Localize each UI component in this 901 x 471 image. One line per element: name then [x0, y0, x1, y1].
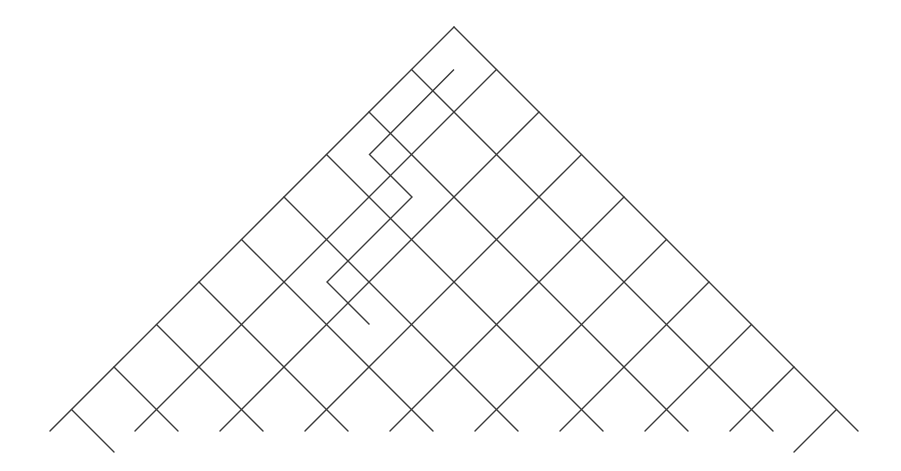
- right-edge: [454, 27, 858, 431]
- grid-line-down-right: [157, 325, 264, 432]
- grid-line-down-left: [730, 367, 794, 431]
- grid-line-down-left: [475, 240, 667, 432]
- lattice-diagram: [0, 0, 901, 471]
- grid-line-down-right: [114, 367, 178, 431]
- grid-line-down-right: [412, 70, 774, 432]
- left-edge: [50, 27, 454, 431]
- grid-line-down-right: [327, 155, 604, 432]
- grid-line-down-left: [390, 197, 624, 431]
- grid-line-down-right: [284, 197, 518, 431]
- grid-line-down-right: [369, 112, 688, 431]
- grid-line-down-left: [135, 70, 497, 432]
- grid-line-down-right: [242, 240, 434, 432]
- grid-line-down-left: [305, 155, 582, 432]
- grid-line-down-left: [794, 410, 837, 453]
- triangular-grid: [50, 27, 858, 452]
- grid-line-down-left: [560, 282, 709, 431]
- grid-line-down-left: [220, 112, 539, 431]
- grid-line-down-right: [72, 410, 115, 453]
- lattice-path: [327, 70, 454, 325]
- grid-line-down-left: [645, 325, 752, 432]
- grid-line-down-right: [199, 282, 348, 431]
